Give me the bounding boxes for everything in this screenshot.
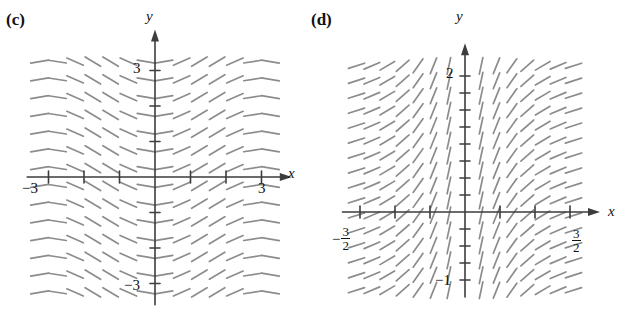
panel-d-xtick-neg-three-halves: − 3 2 bbox=[332, 226, 350, 254]
fraction-numerator: 3 bbox=[572, 227, 581, 240]
panel-d-ytick-neg1: −1 bbox=[435, 272, 451, 289]
panel-d-x-axis-label: x bbox=[608, 203, 615, 220]
panel-c-xtick-3: 3 bbox=[258, 180, 266, 197]
fraction-denominator: 2 bbox=[341, 238, 350, 252]
panel-d-y-axis-label: y bbox=[456, 8, 463, 25]
panel-c-ytick-neg3: −3 bbox=[124, 277, 140, 294]
panel-c-x-axis-label: x bbox=[288, 165, 295, 182]
fraction-denominator: 2 bbox=[572, 240, 581, 254]
panel-c-plot bbox=[0, 0, 305, 313]
panel-d-xtick-three-halves: 3 2 bbox=[572, 226, 581, 256]
panel-c: (c) x y −3 3 3 −3 bbox=[0, 0, 305, 313]
panel-d-ytick-2: 2 bbox=[446, 65, 454, 82]
slope-field-figure: (c) x y −3 3 3 −3 (d) x y − 3 2 3 bbox=[0, 0, 625, 313]
panel-d-plot bbox=[305, 0, 625, 313]
minus-sign: − bbox=[332, 231, 340, 248]
panel-d: (d) x y − 3 2 3 2 2 −1 bbox=[305, 0, 625, 313]
panel-c-xtick-neg3: −3 bbox=[22, 180, 38, 197]
panel-c-y-axis-label: y bbox=[146, 8, 153, 25]
fraction-numerator: 3 bbox=[341, 225, 350, 238]
panel-c-ytick-3: 3 bbox=[133, 60, 141, 77]
